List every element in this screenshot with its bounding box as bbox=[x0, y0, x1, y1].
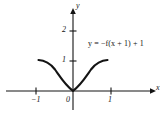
origin-label: 0 bbox=[66, 96, 70, 104]
y-axis-label: y bbox=[76, 2, 80, 10]
x-axis-label: x bbox=[156, 84, 160, 92]
y-axis-tick-label-2: 2 bbox=[62, 26, 66, 34]
x-axis-tick-label-neg1: −1 bbox=[31, 96, 40, 104]
y-axis-tick-label-1: 1 bbox=[62, 56, 66, 64]
plot-canvas bbox=[0, 0, 165, 116]
math-figure-panel: −1 0 1 1 2 x y y = −f(x + 1) + 1 bbox=[0, 0, 165, 116]
y-axis-arrowhead bbox=[70, 8, 76, 14]
x-axis-tick-label-pos1: 1 bbox=[108, 96, 112, 104]
curve-equation-label: y = −f(x + 1) + 1 bbox=[88, 40, 144, 48]
